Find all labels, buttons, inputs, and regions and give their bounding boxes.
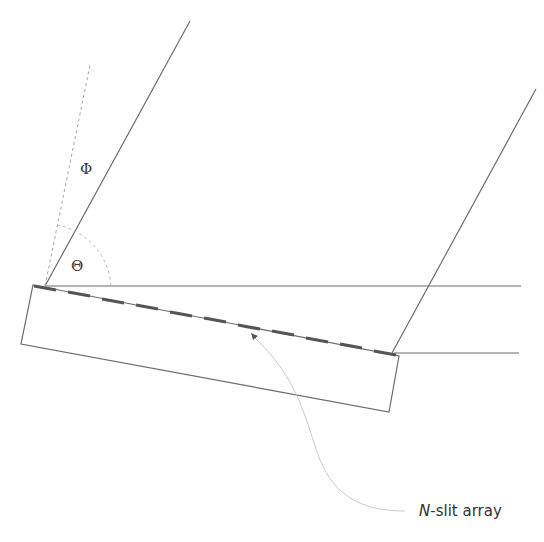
diffracted-ray-right xyxy=(392,89,536,353)
phi-label: Φ xyxy=(80,160,92,178)
caption-rest: -slit array xyxy=(430,502,502,520)
leader-line xyxy=(254,337,405,511)
caption-italic-n: N xyxy=(419,502,430,520)
theta-label: Θ xyxy=(71,257,83,275)
substrate-block xyxy=(21,285,399,412)
arrowhead-icon xyxy=(251,333,258,340)
n-slit-diffraction-diagram: Φ Θ N-slit array xyxy=(0,0,544,542)
diffracted-ray-left xyxy=(45,21,190,286)
theta-arc xyxy=(57,225,111,286)
slit-array xyxy=(34,286,396,355)
n-slit-array-label: N-slit array xyxy=(419,502,502,520)
